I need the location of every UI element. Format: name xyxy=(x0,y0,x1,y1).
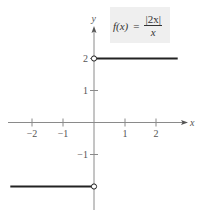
x-axis-label: x xyxy=(189,117,195,128)
x-tick-label: −1 xyxy=(58,128,69,139)
open-circle-icon xyxy=(91,184,96,189)
plot-area: xy−2−112−112 xyxy=(0,0,202,222)
y-tick-label: 2 xyxy=(83,53,88,64)
x-tick-label: 2 xyxy=(154,128,159,139)
y-tick-label: 1 xyxy=(83,85,88,96)
open-circle-icon xyxy=(91,56,96,61)
y-tick-label: −1 xyxy=(77,149,88,160)
axes xyxy=(8,26,188,210)
x-tick-label: 1 xyxy=(123,128,128,139)
x-tick-label: −2 xyxy=(27,128,38,139)
tick-labels: xy−2−112−112 xyxy=(27,13,195,160)
y-axis-label: y xyxy=(91,13,97,24)
